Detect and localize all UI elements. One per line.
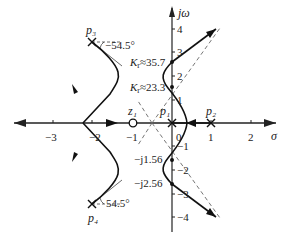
angle-p3-label: −54.5° <box>105 39 135 51</box>
y-tick-label: −4 <box>177 211 189 223</box>
x-tick-label: 2 <box>248 131 254 143</box>
x-tick-label: −3 <box>45 131 57 143</box>
y-tick-label: 1 <box>177 94 183 106</box>
gain-lower-label: Kr≈23.3 <box>129 81 166 95</box>
x-tick-label: 1 <box>208 131 214 143</box>
y-tick-label: −3 <box>177 188 189 200</box>
x-axis-label: σ <box>271 129 278 143</box>
y-tick-label: −1 <box>177 140 189 152</box>
pole-p4-label: p₄ <box>87 211 98 225</box>
x-tick-label: −2 <box>89 131 101 143</box>
zero-z1-icon <box>129 119 137 127</box>
arrow-right-icon <box>264 119 276 127</box>
zero-z1-label: z₁ <box>127 104 137 118</box>
pole-p2-label: p₂ <box>205 104 216 118</box>
real-axis <box>14 119 276 127</box>
y-tick-label: 4 <box>177 23 183 35</box>
y-tick-label: 3 <box>177 46 183 58</box>
x-tick-label: −1 <box>126 131 138 143</box>
y-axis-label: jω <box>176 6 190 20</box>
crossing-1-label: −j1.56 <box>134 153 163 165</box>
pole-p1-label: p₁ <box>159 104 170 118</box>
gain-upper-label: Kr≈35.7 <box>129 56 166 70</box>
y-tick-label: 2 <box>177 70 183 82</box>
arrow-up-icon <box>169 6 175 17</box>
imaginary-axis <box>169 6 175 232</box>
pole-p3-label: p₃ <box>85 23 96 37</box>
y-tick-label: −2 <box>177 164 189 176</box>
angle-p4-label: 54.5° <box>106 197 130 209</box>
root-locus-plot: jω σ −3 −2 −1 0 1 2 1 2 3 4 −1 −2 −3 −4 … <box>0 0 287 246</box>
crossing-2-label: −j2.56 <box>134 177 163 189</box>
arrow-left-icon <box>14 119 26 127</box>
